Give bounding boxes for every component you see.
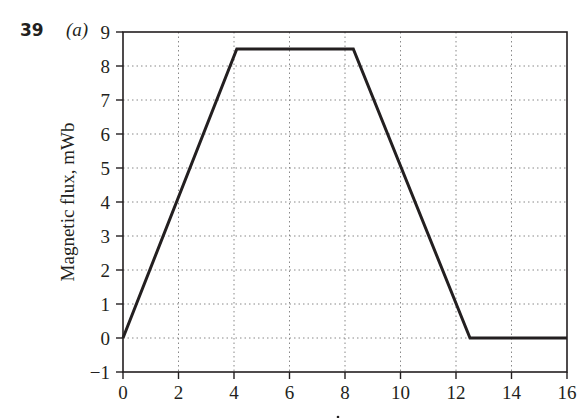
y-tick: 6 [101, 124, 111, 145]
x-tick: 10 [391, 382, 410, 403]
x-tick-labels: 0 2 4 6 8 10 12 14 16 [118, 382, 576, 403]
x-tick: 4 [229, 382, 239, 403]
x-tick: 12 [447, 382, 466, 403]
axis-ticks [116, 32, 567, 379]
y-tick: 7 [101, 90, 111, 111]
y-tick: 0 [101, 328, 111, 349]
grid [123, 32, 567, 372]
x-tick: 2 [174, 382, 184, 403]
x-tick: 8 [340, 382, 350, 403]
x-tick: 0 [118, 382, 128, 403]
flux-line [123, 49, 567, 338]
y-tick: 1 [101, 294, 111, 315]
y-tick: 2 [101, 260, 111, 281]
y-tick-labels: 9 8 7 6 5 4 3 2 1 0 −1 [90, 22, 111, 383]
y-tick: 5 [101, 158, 111, 179]
x-tick: 6 [285, 382, 295, 403]
y-tick: 8 [101, 56, 111, 77]
y-tick: 4 [101, 192, 111, 213]
y-tick: 9 [101, 22, 111, 43]
y-tick: −1 [90, 362, 110, 383]
x-tick: 16 [558, 382, 577, 403]
y-axis-title: Magnetic flux, mWb [57, 123, 78, 282]
x-tick: 14 [502, 382, 522, 403]
y-tick: 3 [101, 226, 111, 247]
flux-chart: 9 8 7 6 5 4 3 2 1 0 −1 0 2 4 6 8 10 12 1… [0, 0, 584, 418]
